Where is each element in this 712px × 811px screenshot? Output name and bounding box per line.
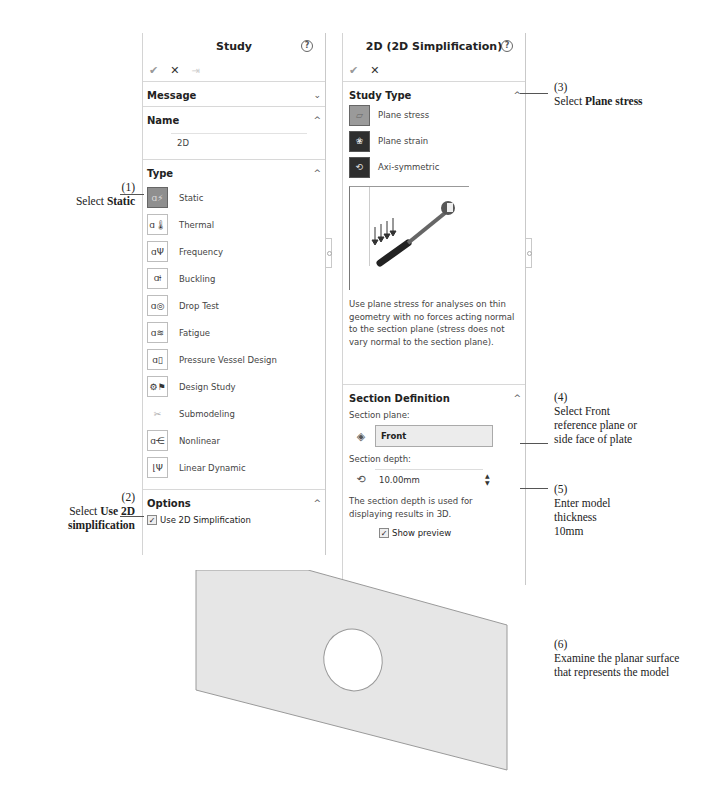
type-option-linear-dynamic[interactable]: ⌊Ψ Linear Dynamic — [147, 454, 321, 481]
chevron-down-icon[interactable]: ⌄ — [313, 90, 321, 100]
2d-panel-header: 2D (2D Simplification) ? — [343, 33, 525, 59]
pin-icon[interactable]: ⇥ — [191, 65, 199, 76]
callout-text: Examine the planar surface — [554, 651, 679, 665]
chevron-up-icon[interactable]: ^ — [313, 498, 321, 508]
message-header[interactable]: Message ⌄ — [147, 88, 321, 102]
callout-4: (4) Select Front reference plane or side… — [554, 390, 637, 446]
study-type-axi-symmetric[interactable]: ⟲ Axi-symmetric — [349, 154, 521, 180]
callout-text: Select Plane stress — [554, 94, 643, 108]
plane-stress-illustration — [349, 186, 469, 290]
cancel-x-icon[interactable]: ✕ — [370, 64, 379, 77]
name-section: Name ^ 2D — [143, 106, 325, 159]
callout-text: side face of plate — [554, 432, 637, 446]
callout-text: Select Static — [40, 194, 135, 208]
callout-text: reference plane or — [554, 418, 637, 432]
ok-check-icon[interactable]: ✔ — [149, 64, 158, 77]
design-study-icon[interactable]: ⚙⚑ — [147, 376, 168, 397]
name-header[interactable]: Name ^ — [147, 113, 321, 127]
help-icon[interactable]: ? — [301, 40, 313, 52]
2d-panel-title: 2D (2D Simplification) — [366, 40, 502, 53]
callout-text: thickness — [554, 510, 611, 524]
planar-plate-model[interactable] — [190, 570, 510, 780]
type-option-submodeling[interactable]: ✂ Submodeling — [147, 400, 321, 427]
show-preview-checkbox[interactable]: ✓ — [379, 528, 389, 538]
type-option-fatigue[interactable]: ɑ≋ Fatigue — [147, 319, 321, 346]
type-option-frequency[interactable]: ɑΨ Frequency — [147, 238, 321, 265]
chevron-up-icon[interactable]: ^ — [513, 393, 521, 403]
frequency-icon[interactable]: ɑΨ — [147, 241, 168, 262]
cancel-x-icon[interactable]: ✕ — [170, 64, 179, 77]
study-type-section: Study Type ^ ▱ Plane stress ❀ Plane stra… — [343, 81, 525, 352]
depth-spinner[interactable]: ▲ ▼ — [485, 472, 490, 486]
section-definition-label: Section Definition — [349, 393, 450, 404]
type-header[interactable]: Type ^ — [147, 166, 321, 180]
type-label: Type — [147, 168, 173, 179]
type-option-drop-test[interactable]: ɑ◎ Drop Test — [147, 292, 321, 319]
study-type-option-label: Axi-symmetric — [378, 162, 439, 172]
submodeling-icon[interactable]: ✂ — [147, 403, 168, 424]
2d-simplification-property-manager: 2D (2D Simplification) ? ✔ ✕ Study Type … — [342, 33, 526, 585]
section-definition-section: Section Definition ^ Section plane: ◈ Fr… — [343, 384, 525, 542]
section-definition-header[interactable]: Section Definition ^ — [349, 391, 521, 405]
type-option-label: Drop Test — [179, 301, 219, 311]
study-type-list: ɑ⚡ Static ɑ🌡 Thermal ɑΨ Frequency ɑ⟊ Buc… — [147, 184, 321, 481]
chevron-up-icon[interactable]: ^ — [313, 115, 321, 125]
plane-stress-icon[interactable]: ▱ — [349, 105, 370, 126]
study-property-manager: Study ? ✔ ✕ ⇥ Message ⌄ Name ^ 2D Type ^… — [142, 33, 326, 555]
chevron-up-icon[interactable]: ^ — [313, 168, 321, 178]
plane-selection-icon: ◈ — [349, 430, 373, 443]
ok-check-icon[interactable]: ✔ — [349, 64, 358, 77]
use-2d-simplification-label: Use 2D Simplification — [160, 515, 251, 525]
buckling-icon[interactable]: ɑ⟊ — [147, 268, 168, 289]
leader-line — [520, 443, 548, 444]
show-preview-option[interactable]: ✓ Show preview — [379, 528, 521, 538]
leader-line — [120, 516, 144, 517]
study-type-plane-stress[interactable]: ▱ Plane stress — [349, 102, 521, 128]
panel-collapse-handle[interactable] — [326, 238, 332, 268]
fatigue-icon[interactable]: ɑ≋ — [147, 322, 168, 343]
study-name-input[interactable]: 2D — [171, 133, 307, 151]
study-type-header[interactable]: Study Type ^ — [349, 88, 521, 102]
options-header[interactable]: Options ^ — [147, 496, 321, 510]
type-option-pressure-vessel-design[interactable]: ɑ▯ Pressure Vessel Design — [147, 346, 321, 373]
type-option-thermal[interactable]: ɑ🌡 Thermal — [147, 211, 321, 238]
callout-text: Enter model — [554, 496, 611, 510]
study-type-plane-strain[interactable]: ❀ Plane strain — [349, 128, 521, 154]
type-option-label: Buckling — [179, 274, 215, 284]
callout-number: (6) — [554, 637, 679, 651]
panel-collapse-handle[interactable] — [526, 238, 532, 268]
spinner-up-icon[interactable]: ▲ — [485, 472, 490, 479]
linear-dynamic-icon[interactable]: ⌊Ψ — [147, 457, 168, 478]
type-option-design-study[interactable]: ⚙⚑ Design Study — [147, 373, 321, 400]
type-option-nonlinear[interactable]: ɑ⋲ Nonlinear — [147, 427, 321, 454]
study-type-option-label: Plane stress — [378, 110, 429, 120]
callout-5: (5) Enter model thickness 10mm — [554, 482, 611, 538]
plane-strain-icon[interactable]: ❀ — [349, 131, 370, 152]
nonlinear-icon[interactable]: ɑ⋲ — [147, 430, 168, 451]
type-option-buckling[interactable]: ɑ⟊ Buckling — [147, 265, 321, 292]
static-icon[interactable]: ɑ⚡ — [147, 187, 168, 208]
section-plane-input[interactable]: Front — [375, 425, 493, 447]
pressure-vessel-icon[interactable]: ɑ▯ — [147, 349, 168, 370]
help-icon[interactable]: ? — [501, 40, 513, 52]
type-option-static[interactable]: ɑ⚡ Static — [147, 184, 321, 211]
spinner-down-icon[interactable]: ▼ — [485, 479, 490, 486]
callout-text: that represents the model — [554, 665, 679, 679]
type-option-label: Design Study — [179, 382, 236, 392]
use-2d-simplification-checkbox[interactable]: ✓ — [147, 515, 157, 525]
thermal-icon[interactable]: ɑ🌡 — [147, 214, 168, 235]
type-option-label: Frequency — [179, 247, 223, 257]
options-section: Options ^ ✓ Use 2D Simplification — [143, 489, 325, 529]
type-option-label: Submodeling — [179, 409, 235, 419]
axi-symmetric-icon[interactable]: ⟲ — [349, 157, 370, 178]
section-depth-input[interactable]: 10.00mm — [375, 469, 483, 489]
callout-number: (3) — [554, 80, 643, 94]
study-panel-title: Study — [216, 40, 252, 53]
use-2d-simplification-option[interactable]: ✓ Use 2D Simplification — [147, 515, 321, 525]
leader-line — [520, 93, 548, 94]
drop-test-icon[interactable]: ɑ◎ — [147, 295, 168, 316]
study-type-option-label: Plane strain — [378, 136, 428, 146]
wrench-illustration-icon — [350, 187, 470, 291]
depth-icon: ⟲ — [349, 473, 373, 486]
chevron-up-icon[interactable]: ^ — [513, 90, 521, 100]
